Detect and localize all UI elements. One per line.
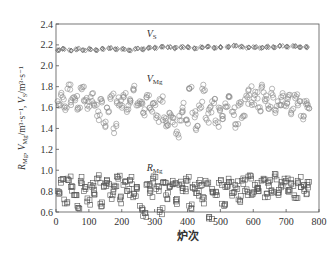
x-tick-label: 700 (279, 216, 294, 227)
data-point (96, 118, 101, 123)
data-point (233, 125, 238, 130)
y-tick-label: 2.4 (41, 19, 54, 30)
scatter-chart: 01002003004005006007008000.60.81.01.21.4… (0, 0, 331, 255)
data-point (111, 131, 116, 136)
data-point (238, 198, 243, 203)
series-label: RMg (146, 162, 163, 175)
data-point (255, 96, 260, 101)
y-tick-label: 0.6 (41, 207, 54, 218)
data-point (160, 94, 165, 99)
x-axis-title: 炉次 (177, 229, 199, 243)
y-tick-label: 1.0 (41, 165, 54, 176)
y-title-v-unit: /m³·s⁻¹, (17, 103, 27, 135)
data-point (198, 178, 203, 183)
data-point (185, 178, 190, 183)
x-tick-label: 800 (312, 216, 327, 227)
y-tick-label: 1.2 (41, 144, 54, 155)
data-point (65, 178, 70, 183)
series-r-mg (55, 171, 311, 221)
chart-canvas: 01002003004005006007008000.60.81.01.21.4… (0, 0, 331, 255)
series-label: VS (147, 28, 157, 41)
data-point (307, 179, 312, 184)
data-point (246, 101, 251, 106)
data-point (181, 100, 186, 105)
y-axis-title: RMg, VMg/m³·s⁻¹, VS/m³·s⁻¹ (17, 66, 28, 171)
data-point (96, 109, 101, 114)
data-point (274, 177, 279, 182)
x-tick-label: 0 (54, 216, 59, 227)
data-point (129, 175, 134, 180)
data-point (199, 105, 204, 110)
series-v-mg (55, 82, 312, 140)
data-point (295, 196, 300, 201)
y-tick-label: 2.0 (41, 60, 54, 71)
y-tick-label: 1.8 (41, 81, 54, 92)
x-tick-label: 600 (246, 216, 261, 227)
x-tick-label: 300 (147, 216, 162, 227)
series-label: VMg (147, 73, 163, 86)
data-point (147, 105, 152, 110)
x-tick-label: 200 (114, 216, 129, 227)
data-point (96, 173, 101, 178)
series-v-s (56, 43, 310, 53)
data-points-layer (55, 43, 312, 222)
data-point (96, 176, 101, 181)
data-point (307, 106, 312, 111)
data-point (178, 179, 183, 184)
y-tick-label: 1.6 (41, 102, 54, 113)
data-point (249, 84, 254, 89)
data-point (289, 177, 294, 182)
data-point (142, 107, 147, 112)
data-point (200, 99, 205, 104)
data-point (88, 202, 93, 207)
x-tick-label: 100 (81, 216, 96, 227)
data-point (223, 202, 228, 207)
data-point (256, 189, 261, 194)
x-tick-label: 500 (213, 216, 228, 227)
y-tick-label: 0.8 (41, 186, 54, 197)
data-point (197, 106, 202, 111)
data-point (305, 180, 310, 185)
x-tick-label: 400 (180, 216, 195, 227)
y-tick-label: 1.4 (41, 123, 54, 134)
y-title-vs-unit: /m³·s⁻¹ (17, 66, 27, 94)
y-tick-label: 2.2 (41, 39, 54, 50)
data-point (176, 135, 181, 140)
data-point (114, 121, 119, 126)
data-point (80, 181, 85, 186)
